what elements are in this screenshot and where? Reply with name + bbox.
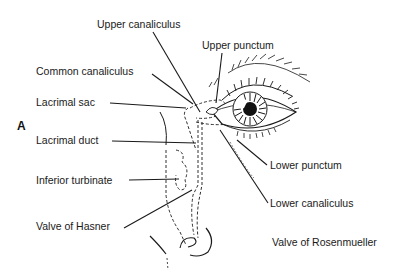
leader-lower-canaliculus (220, 130, 268, 203)
label-lacrimal-duct: Lacrimal duct (36, 134, 98, 146)
eye (206, 54, 310, 139)
label-upper-punctum: Upper punctum (202, 39, 274, 51)
leader-lacrimal-duct (112, 141, 196, 143)
leader-inferior-turbinate (129, 179, 179, 180)
eyebrow (209, 54, 310, 87)
lower-lashes (237, 128, 276, 139)
lacrimal-system-diagram: A Upper canaliculus Upper punctum Common… (0, 0, 411, 278)
label-valve-of-hasner: Valve of Hasner (36, 220, 110, 232)
leader-valve-of-hasner (124, 190, 192, 228)
label-common-canaliculus: Common canaliculus (36, 65, 133, 77)
label-upper-canaliculus: Upper canaliculus (97, 18, 180, 30)
panel-letter: A (17, 119, 26, 133)
leader-upper-canaliculus (153, 32, 200, 112)
label-lower-canaliculus: Lower canaliculus (270, 197, 353, 209)
label-lower-punctum: Lower punctum (270, 159, 342, 171)
label-lacrimal-sac: Lacrimal sac (36, 96, 95, 108)
label-valve-of-rosenmueller: Valve of Rosenmueller (272, 236, 377, 248)
label-inferior-turbinate: Inferior turbinate (36, 174, 112, 186)
leader-lines (110, 32, 268, 228)
leader-upper-punctum (216, 53, 222, 103)
leader-lacrimal-sac (110, 103, 186, 108)
